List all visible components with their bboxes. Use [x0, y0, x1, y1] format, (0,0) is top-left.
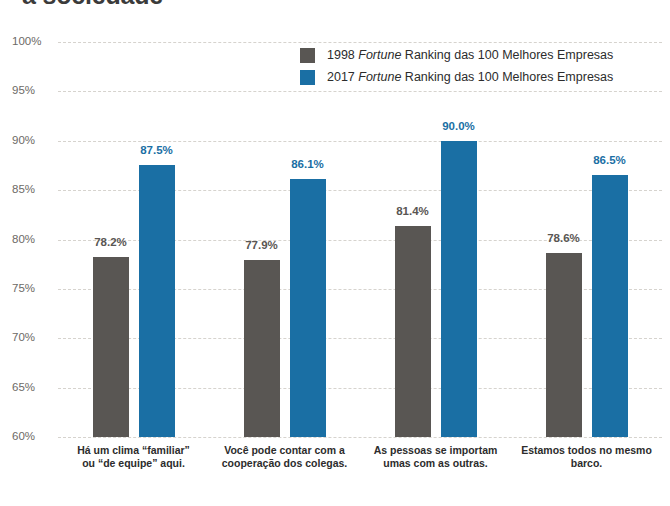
y-axis-tick-label: 80%: [12, 233, 56, 245]
gridline: [58, 42, 662, 43]
bar-s1998-3: [546, 253, 582, 437]
category-label-line: Há um clima “familiar”: [50, 444, 217, 457]
gridline: [58, 91, 662, 92]
bar-s2017-1: [290, 179, 326, 437]
legend-item-label: 1998 Fortune Ranking das 100 Melhores Em…: [327, 48, 613, 62]
page-title: a sociedade: [22, 0, 163, 10]
bar-s1998-1: [244, 260, 280, 437]
category-label-line: Você pode contar com a: [201, 444, 368, 457]
legend-swatch-icon: [300, 48, 315, 63]
bar-value-label: 77.9%: [232, 239, 292, 251]
y-axis-tick-label: 75%: [12, 282, 56, 294]
chart-page: a sociedade 1998 Fortune Ranking das 100…: [0, 0, 670, 506]
y-axis-tick-label: 85%: [12, 183, 56, 195]
bar-value-label: 78.2%: [81, 236, 141, 248]
category-label-line: Estamos todos no mesmo: [503, 444, 670, 457]
legend-description: Ranking das 100 Melhores Empresas: [401, 48, 613, 62]
bar-s1998-2: [395, 226, 431, 437]
bar-value-label: 78.6%: [534, 232, 594, 244]
legend-item-label: 2017 Fortune Ranking das 100 Melhores Em…: [327, 70, 613, 84]
chart-legend: 1998 Fortune Ranking das 100 Melhores Em…: [300, 44, 613, 88]
y-axis-tick-label: 65%: [12, 381, 56, 393]
category-label-line: ou “de equipe” aqui.: [50, 457, 217, 470]
bar-value-label: 81.4%: [383, 205, 443, 217]
category-label-line: umas com as outras.: [352, 457, 519, 470]
y-axis-tick-label: 70%: [12, 331, 56, 343]
x-axis-category-label: Estamos todos no mesmobarco.: [503, 444, 670, 470]
x-axis-category-label: Há um clima “familiar”ou “de equipe” aqu…: [50, 444, 217, 470]
category-label-line: barco.: [503, 457, 670, 470]
category-label-line: As pessoas se importam: [352, 444, 519, 457]
bar-s2017-0: [139, 165, 175, 437]
legend-year: 2017: [327, 70, 358, 84]
legend-year: 1998: [327, 48, 358, 62]
gridline: [58, 437, 662, 438]
legend-item-s1998[interactable]: 1998 Fortune Ranking das 100 Melhores Em…: [300, 44, 613, 66]
y-axis-tick-label: 90%: [12, 134, 56, 146]
bar-value-label: 86.1%: [278, 158, 338, 170]
legend-item-s2017[interactable]: 2017 Fortune Ranking das 100 Melhores Em…: [300, 66, 613, 88]
bar-s2017-2: [441, 141, 477, 437]
x-axis-category-label: As pessoas se importamumas com as outras…: [352, 444, 519, 470]
legend-publication: Fortune: [358, 70, 401, 84]
bar-value-label: 90.0%: [429, 120, 489, 132]
bar-value-label: 87.5%: [127, 144, 187, 156]
legend-publication: Fortune: [358, 48, 401, 62]
bar-s2017-3: [592, 175, 628, 437]
legend-swatch-icon: [300, 70, 315, 85]
category-label-line: cooperação dos colegas.: [201, 457, 368, 470]
legend-description: Ranking das 100 Melhores Empresas: [401, 70, 613, 84]
y-axis-tick-label: 100%: [12, 35, 56, 47]
y-axis-tick-label: 60%: [12, 430, 56, 442]
gridline: [58, 141, 662, 142]
x-axis-category-label: Você pode contar com acooperação dos col…: [201, 444, 368, 470]
bar-value-label: 86.5%: [580, 154, 640, 166]
y-axis-tick-label: 95%: [12, 84, 56, 96]
bar-s1998-0: [93, 257, 129, 437]
